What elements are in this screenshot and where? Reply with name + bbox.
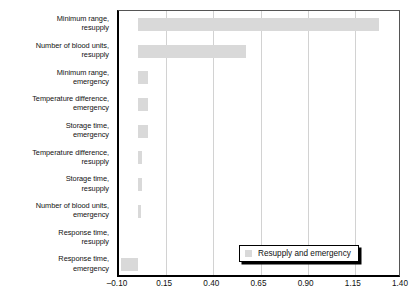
category-label-line: resupply (81, 237, 109, 246)
category-label-line: emergency (73, 264, 109, 273)
bar (138, 205, 141, 218)
bar (138, 45, 246, 58)
legend[interactable]: Resupply and emergency (239, 245, 359, 262)
category-label: Temperature difference,emergency (0, 90, 113, 117)
category-label-line: Number of blood units, (36, 41, 109, 50)
bar (138, 151, 142, 164)
category-label-line: Storage time, (66, 174, 109, 183)
category-label-line: Minimum range, (57, 68, 109, 77)
value-axis-tick-label: –0.10 (107, 279, 128, 288)
category-label: Number of blood units,emergency (0, 197, 113, 224)
category-label-line: Minimum range, (57, 14, 109, 23)
category-label-line: resupply (81, 157, 109, 166)
category-label-line: Response time, (58, 228, 109, 237)
category-label-line: emergency (73, 210, 109, 219)
value-axis-tick-label: 1.15 (345, 279, 361, 288)
category-label: Temperature difference,resupply (0, 144, 113, 171)
category-label-line: emergency (73, 77, 109, 86)
bar-chart: Minimum range,resupplyNumber of blood un… (0, 0, 413, 300)
bar-series (119, 11, 399, 275)
value-axis-tick-label: 0.90 (298, 279, 314, 288)
category-axis-labels: Minimum range,resupplyNumber of blood un… (0, 10, 113, 277)
legend-swatch-icon (245, 250, 252, 257)
category-label-line: Response time, (58, 254, 109, 263)
bar (138, 98, 148, 111)
category-label-line: Storage time, (66, 121, 109, 130)
value-axis-tick-label: 0.40 (203, 279, 219, 288)
value-axis-ticks: –0.100.150.400.650.901.151.40 (117, 279, 400, 293)
category-label: Response time,emergency (0, 250, 113, 277)
category-label-line: Number of blood units, (36, 201, 109, 210)
category-label: Storage time,emergency (0, 117, 113, 144)
category-label-line: resupply (81, 23, 109, 32)
category-label-line: emergency (73, 130, 109, 139)
plot-area (117, 10, 400, 277)
bar (138, 71, 148, 84)
category-label: Number of blood units,resupply (0, 37, 113, 64)
category-label: Storage time,resupply (0, 170, 113, 197)
bar (138, 18, 379, 31)
bar (138, 125, 148, 138)
category-label-line: resupply (81, 184, 109, 193)
bar (138, 178, 142, 191)
value-axis-tick-label: 0.65 (251, 279, 267, 288)
category-label: Minimum range,resupply (0, 10, 113, 37)
bar (121, 258, 138, 271)
category-label-line: Temperature difference, (32, 94, 109, 103)
category-label: Response time,resupply (0, 224, 113, 251)
category-label-line: Temperature difference, (32, 148, 109, 157)
category-label-line: resupply (81, 50, 109, 59)
plot-inner (119, 11, 399, 275)
category-label-line: emergency (73, 103, 109, 112)
value-axis-tick-label: 0.15 (156, 279, 172, 288)
legend-label: Resupply and emergency (258, 249, 351, 258)
value-axis-tick-label: 1.40 (392, 279, 408, 288)
category-label: Minimum range,emergency (0, 63, 113, 90)
